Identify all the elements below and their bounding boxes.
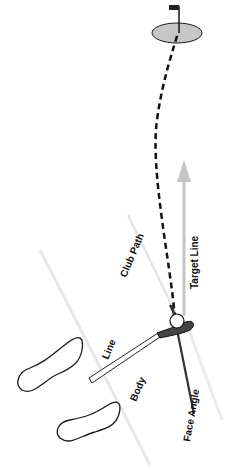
line-label: Line xyxy=(100,337,118,361)
ball-flight-path xyxy=(156,33,178,318)
golf-ball-icon xyxy=(170,314,184,328)
golf-diagram: Club Path Target Line Line Body Face Ang… xyxy=(0,0,225,470)
right-foot-icon xyxy=(57,402,120,441)
target-arrow-icon xyxy=(177,160,191,182)
body-label: Body xyxy=(128,375,148,403)
face-angle-label: Face Angle xyxy=(181,388,201,443)
club-shaft xyxy=(89,333,160,383)
body-line xyxy=(40,250,150,465)
club-path-line xyxy=(128,215,178,318)
flag-icon xyxy=(169,5,179,10)
left-foot-icon xyxy=(18,338,83,392)
club-path-label: Club Path xyxy=(118,232,146,279)
target-line-label: Target Line xyxy=(189,235,200,289)
